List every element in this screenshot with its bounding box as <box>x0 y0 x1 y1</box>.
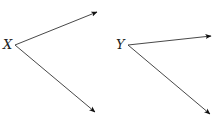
angle-diagram: X Y <box>0 0 217 123</box>
angle-x: X <box>2 12 97 112</box>
angle-x-label: X <box>2 37 13 52</box>
angle-x-upper-ray-arrow-icon <box>15 12 97 45</box>
angle-y-upper-ray-arrow-icon <box>128 36 211 45</box>
diagram-canvas: X Y <box>0 0 217 123</box>
angle-y-label: Y <box>116 37 126 52</box>
angle-y-lower-ray-arrow-icon <box>128 45 210 114</box>
angle-y: Y <box>116 36 211 114</box>
angle-x-lower-ray-arrow-icon <box>15 45 95 112</box>
